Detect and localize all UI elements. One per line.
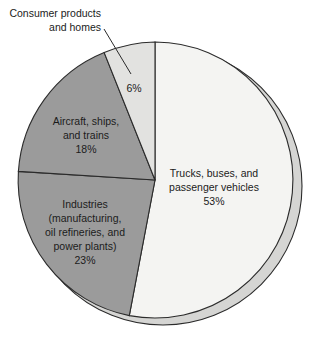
industries-label-line4: power plants) — [53, 240, 116, 252]
trucks-label-line2: passenger vehicles — [169, 181, 259, 193]
aircraft-label-line2: and trains — [63, 129, 109, 141]
industries-label-line3: oil refineries, and — [45, 226, 125, 238]
aircraft-percent-label: 18% — [75, 143, 96, 155]
trucks-label-line1: Trucks, buses, and — [170, 167, 258, 179]
trucks-percent-label: 53% — [203, 195, 224, 207]
industries-label-line1: Industries — [62, 198, 108, 210]
consumer-callout-label: Consumer products and homes — [9, 7, 101, 33]
consumer-label-line2: and homes — [49, 21, 101, 33]
industries-label-line2: (manufacturing, — [49, 212, 122, 224]
aircraft-label-line1: Aircraft, ships, — [53, 115, 120, 127]
pie-chart: Consumer products and homes 6% Aircraft,… — [0, 0, 316, 349]
industries-percent-label: 23% — [74, 254, 95, 266]
pie-slices — [18, 42, 293, 318]
consumer-percent-label: 6% — [126, 82, 141, 94]
consumer-label-line1: Consumer products — [9, 7, 101, 19]
pie-chart-svg: Consumer products and homes 6% Aircraft,… — [0, 0, 316, 349]
